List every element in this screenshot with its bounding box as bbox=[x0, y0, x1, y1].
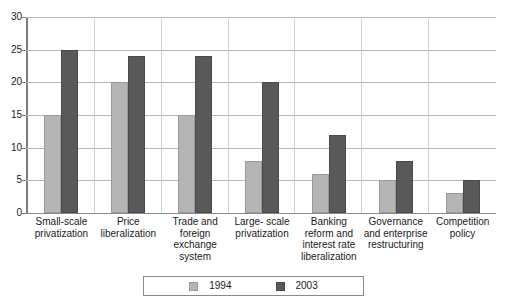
bar-group bbox=[229, 17, 296, 213]
category-axis-labels: Small-scaleprivatizationPriceliberalizat… bbox=[28, 216, 496, 272]
category-label-line: interest rate bbox=[296, 239, 361, 251]
bar-2003-6[interactable] bbox=[463, 180, 480, 213]
category-label-line: Competition bbox=[430, 216, 495, 228]
bar-group bbox=[95, 17, 162, 213]
bar-group bbox=[429, 17, 496, 213]
bar-1994-1[interactable] bbox=[111, 82, 128, 213]
bar-pair bbox=[362, 17, 429, 213]
bar-pair bbox=[429, 17, 496, 213]
y-tick-label: 10 bbox=[0, 143, 22, 153]
chart-legend: 19942003 bbox=[143, 276, 364, 296]
y-tick-label: 20 bbox=[0, 77, 22, 87]
category-label-line: liberalization bbox=[296, 251, 361, 263]
bar-group bbox=[362, 17, 429, 213]
bar-pair bbox=[28, 17, 95, 213]
category-label-line: Governance bbox=[363, 216, 428, 228]
bar-2003-3[interactable] bbox=[262, 82, 279, 213]
bar-2003-1[interactable] bbox=[128, 56, 145, 213]
y-tick-label: 30 bbox=[0, 12, 22, 22]
category-label-line: restructuring bbox=[363, 239, 428, 251]
bar-2003-4[interactable] bbox=[329, 135, 346, 213]
bar-pair bbox=[95, 17, 162, 213]
legend-entry-1994[interactable]: 1994 bbox=[189, 281, 231, 291]
bar-1994-0[interactable] bbox=[44, 115, 61, 213]
category-label-6: Competitionpolicy bbox=[429, 216, 496, 272]
category-label-line: and enterprise bbox=[363, 228, 428, 240]
bar-2003-5[interactable] bbox=[396, 161, 413, 213]
category-label-1: Priceliberalization bbox=[95, 216, 162, 272]
category-label-4: Bankingreform andinterest rateliberaliza… bbox=[295, 216, 362, 272]
legend-label: 1994 bbox=[209, 281, 231, 291]
bar-2003-0[interactable] bbox=[61, 50, 78, 213]
category-label-line: foreign bbox=[163, 228, 228, 240]
bar-1994-5[interactable] bbox=[379, 180, 396, 213]
category-label-2: Trade andforeignexchangesystem bbox=[162, 216, 229, 272]
bar-pair bbox=[229, 17, 296, 213]
legend-swatch-icon bbox=[276, 282, 285, 291]
category-label-line: Small-scale bbox=[29, 216, 94, 228]
bar-group bbox=[28, 17, 95, 213]
category-label-line: liberalization bbox=[96, 228, 161, 240]
y-tick-label: 15 bbox=[0, 110, 22, 120]
bar-1994-2[interactable] bbox=[178, 115, 195, 213]
category-label-0: Small-scaleprivatization bbox=[28, 216, 95, 272]
category-label-line: privatization bbox=[230, 228, 295, 240]
bar-1994-6[interactable] bbox=[446, 193, 463, 213]
category-label-line: policy bbox=[430, 228, 495, 240]
bar-1994-3[interactable] bbox=[245, 161, 262, 213]
legend-swatch-icon bbox=[189, 282, 198, 291]
bar-group bbox=[295, 17, 362, 213]
category-label-line: reform and bbox=[296, 228, 361, 240]
category-label-line: exchange bbox=[163, 239, 228, 251]
y-tick-label: 25 bbox=[0, 45, 22, 55]
bar-group bbox=[162, 17, 229, 213]
category-label-line: Trade and bbox=[163, 216, 228, 228]
category-label-line: Price bbox=[96, 216, 161, 228]
gridline-0 bbox=[26, 213, 496, 214]
bar-pair bbox=[295, 17, 362, 213]
category-label-line: Banking bbox=[296, 216, 361, 228]
legend-label: 2003 bbox=[296, 281, 318, 291]
category-label-line: Large- scale bbox=[230, 216, 295, 228]
y-axis-labels: 051015202530 bbox=[0, 0, 22, 302]
bar-1994-4[interactable] bbox=[312, 174, 329, 213]
y-tick-label: 0 bbox=[0, 208, 22, 218]
category-label-3: Large- scaleprivatization bbox=[229, 216, 296, 272]
category-label-line: privatization bbox=[29, 228, 94, 240]
bar-chart: 051015202530 Small-scaleprivatizationPri… bbox=[0, 0, 507, 302]
category-label-line: system bbox=[163, 251, 228, 263]
bar-2003-2[interactable] bbox=[195, 56, 212, 213]
y-tick-label: 5 bbox=[0, 175, 22, 185]
bar-groups bbox=[28, 17, 496, 213]
category-label-5: Governanceand enterpriserestructuring bbox=[362, 216, 429, 272]
legend-entry-2003[interactable]: 2003 bbox=[276, 281, 318, 291]
bar-pair bbox=[162, 17, 229, 213]
